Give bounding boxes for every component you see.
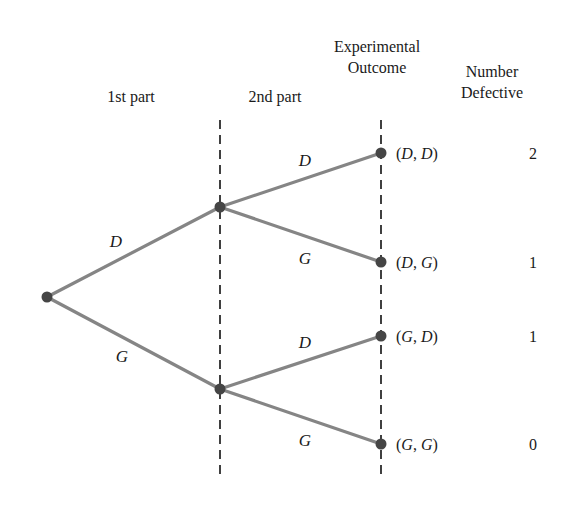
node-stage1-G — [215, 384, 226, 395]
count-DD: 2 — [529, 145, 537, 162]
node-leaf-DG — [376, 257, 387, 268]
outcome-DG: (D, G) — [396, 254, 438, 272]
node-root — [42, 292, 53, 303]
tree-diagram: 1st part 2nd part Experimental Outcome N… — [0, 0, 587, 505]
branch-root-G — [47, 297, 220, 389]
branch-label-stage1-D: D — [109, 232, 123, 251]
tree-canvas: D G D G D G (D, D) (D, G) (G, D) (G, G) … — [0, 0, 587, 505]
count-GG: 0 — [529, 436, 537, 453]
branch-label-stage1-G: G — [116, 347, 128, 366]
node-leaf-GG — [376, 439, 387, 450]
node-leaf-DD — [376, 148, 387, 159]
branch-label-stage2-DG: G — [299, 249, 311, 268]
outcome-GG: (G, G) — [396, 436, 438, 454]
branch-label-stage2-GG: G — [299, 431, 311, 450]
branch-root-D — [47, 207, 220, 297]
branch-label-stage2-GD: D — [298, 333, 312, 352]
outcome-GD: (G, D) — [396, 328, 438, 346]
node-stage1-D — [215, 202, 226, 213]
branch-label-stage2-DD: D — [298, 151, 312, 170]
outcome-DD: (D, D) — [396, 145, 438, 163]
count-DG: 1 — [529, 254, 537, 271]
count-GD: 1 — [529, 328, 537, 345]
node-leaf-GD — [376, 331, 387, 342]
